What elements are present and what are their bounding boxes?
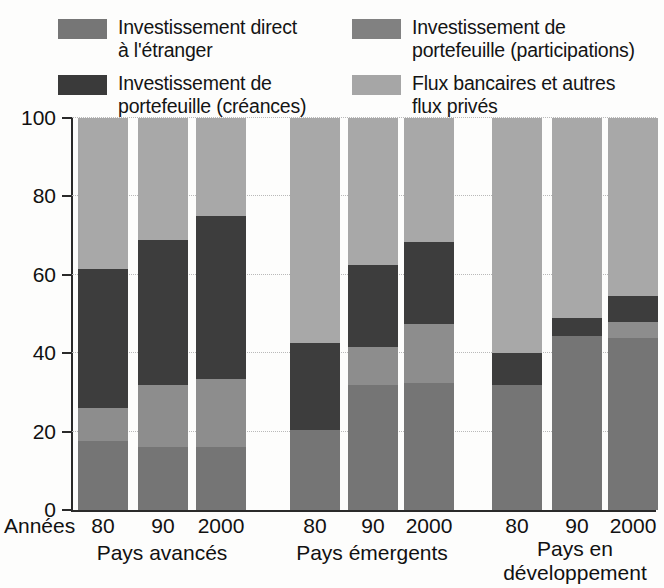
group-label-1: Pays émergents: [262, 541, 482, 565]
bar-segment-debt: [138, 240, 188, 385]
bar-segment-fdi: [196, 447, 246, 510]
bar-segment-equity: [608, 322, 658, 338]
bar-segment-debt: [290, 343, 340, 429]
y-axis-tick-0: [62, 509, 73, 511]
bar-segment-fdi: [78, 441, 128, 510]
bar-80-0[interactable]: [78, 118, 128, 510]
bar-segment-equity: [196, 379, 246, 448]
x-tick-label-5: 2000: [394, 514, 464, 537]
bar-segment-equity: [138, 385, 188, 448]
bar-segment-bank: [404, 118, 454, 241]
bar-segment-debt: [608, 296, 658, 321]
y-axis-label-40: 40: [8, 342, 56, 363]
y-axis-label-100: 100: [8, 107, 56, 128]
bar-segment-debt: [404, 242, 454, 324]
bar-segment-equity: [404, 324, 454, 383]
bar-segment-bank: [78, 118, 128, 269]
group-label-2: Pays en développement: [465, 537, 664, 584]
bar-segment-bank: [196, 118, 246, 216]
bar-90-7[interactable]: [552, 118, 602, 510]
bar-segment-bank: [552, 118, 602, 318]
y-axis-label-20: 20: [8, 421, 56, 442]
bar-segment-equity: [78, 408, 128, 441]
bar-2000-5[interactable]: [404, 118, 454, 510]
group-label-0: Pays avancés: [52, 541, 272, 565]
bar-segment-debt: [78, 269, 128, 408]
y-axis-line: [71, 117, 73, 511]
bar-2000-2[interactable]: [196, 118, 246, 510]
bar-segment-fdi: [404, 383, 454, 510]
x-tick-label-2: 2000: [186, 514, 256, 537]
bar-segment-bank: [138, 118, 188, 240]
bar-segment-debt: [348, 265, 398, 347]
bar-segment-fdi: [492, 385, 542, 510]
y-axis-label-60: 60: [8, 264, 56, 285]
bar-segment-equity: [348, 347, 398, 384]
bar-2000-8[interactable]: [608, 118, 658, 510]
bar-segment-fdi: [348, 385, 398, 510]
x-axis-line: [71, 510, 656, 512]
bar-segment-bank: [492, 118, 542, 353]
bar-segment-fdi: [608, 338, 658, 510]
bar-90-1[interactable]: [138, 118, 188, 510]
bar-segment-debt: [492, 353, 542, 384]
bar-segment-fdi: [138, 447, 188, 510]
bar-80-6[interactable]: [492, 118, 542, 510]
bar-90-4[interactable]: [348, 118, 398, 510]
bar-segment-debt: [552, 318, 602, 336]
bar-segment-bank: [290, 118, 340, 343]
bar-segment-bank: [608, 118, 658, 296]
bar-80-3[interactable]: [290, 118, 340, 510]
y-axis-label-80: 80: [8, 185, 56, 206]
stacked-bar-chart: 100806040200 Années 80902000809020008090…: [0, 0, 664, 588]
x-tick-label-8: 2000: [598, 514, 664, 537]
bar-segment-debt: [196, 216, 246, 379]
bar-segment-fdi: [552, 336, 602, 510]
bar-segment-bank: [348, 118, 398, 265]
x-axis-row-label: Années: [4, 514, 75, 537]
bar-segment-fdi: [290, 430, 340, 510]
